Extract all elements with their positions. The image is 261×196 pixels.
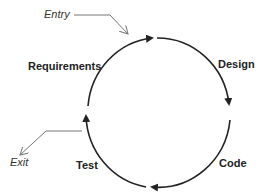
arc-code-to-test <box>152 120 230 187</box>
entry-arrow <box>74 15 128 34</box>
stage-label-design: Design <box>218 58 255 70</box>
stage-label-test: Test <box>76 159 98 171</box>
stage-label-requirements: Requirements <box>28 60 101 72</box>
stage-label-code: Code <box>219 157 247 169</box>
arc-requirements-to-design <box>88 38 152 106</box>
exit-label: Exit <box>10 156 28 168</box>
entry-label: Entry <box>44 8 70 20</box>
exit-arrow <box>20 131 82 155</box>
arc-design-to-code <box>157 38 229 104</box>
arc-test-to-requirements <box>86 116 146 187</box>
